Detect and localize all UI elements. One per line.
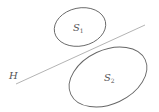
hyperplane-h: H (8, 25, 145, 84)
set-s2-label: S2 (104, 72, 115, 84)
set-s1-label: S1 (73, 22, 84, 34)
separating-hyperplane-diagram: S1 S2 H (0, 0, 159, 112)
hyperplane-label: H (8, 70, 18, 81)
set-s1: S1 (51, 3, 110, 51)
